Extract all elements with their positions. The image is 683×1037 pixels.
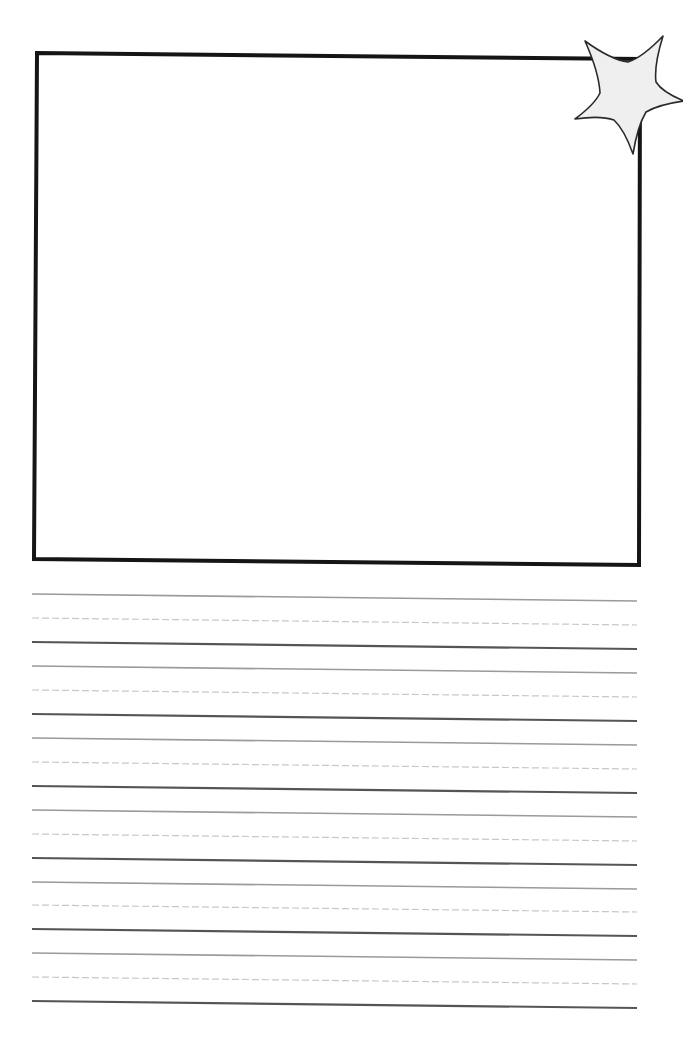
worksheet-page bbox=[0, 0, 683, 1037]
drawing-box bbox=[34, 53, 640, 565]
